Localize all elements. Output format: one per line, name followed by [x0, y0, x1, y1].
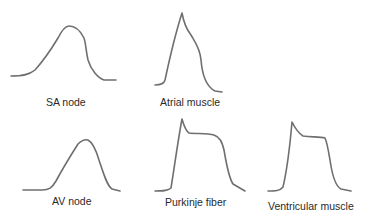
purkinje-fiber-label: Purkinje fiber — [165, 196, 226, 208]
av-node-waveform — [23, 140, 120, 191]
sa-node-waveform — [11, 26, 116, 80]
purkinje-fiber-waveform — [155, 119, 245, 191]
ventricular-muscle-waveform — [268, 122, 351, 191]
atrial-muscle-label: Atrial muscle — [160, 96, 220, 108]
sa-node-label: SA node — [46, 96, 86, 108]
ventricular-muscle-label: Ventricular muscle — [268, 200, 354, 212]
av-node-label: AV node — [52, 195, 92, 207]
action-potential-diagram — [0, 0, 369, 218]
atrial-muscle-waveform — [155, 13, 222, 92]
